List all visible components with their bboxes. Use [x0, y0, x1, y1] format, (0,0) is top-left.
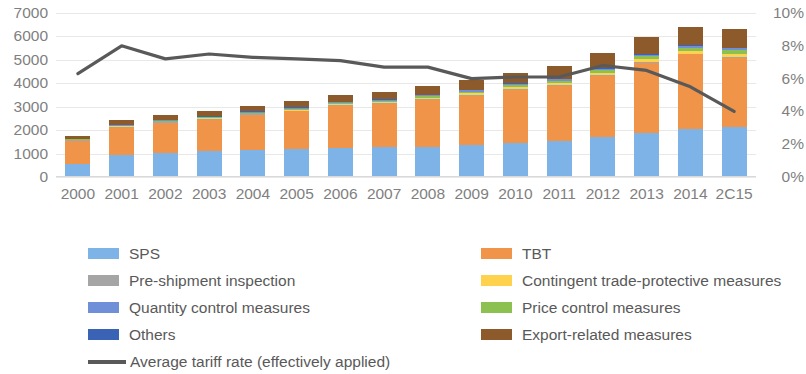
legend-swatch-icon [481, 248, 512, 259]
x-axis-tick-label: 2012 [581, 186, 625, 202]
x-axis-tick-label: 2002 [144, 186, 188, 202]
x-axis-tick-label: 2008 [406, 186, 450, 202]
legend-swatch-icon [88, 302, 119, 313]
x-axis-tick-label: 2009 [450, 186, 494, 202]
y-axis-right-tick-label: 2% [762, 136, 804, 152]
legend-swatch-icon [88, 248, 119, 259]
legend-item-sps: SPS [88, 240, 310, 267]
legend-item-export-related-measures: Export-related measures [481, 321, 781, 348]
y-axis-tick-label: 1000 [0, 146, 48, 162]
y-axis-tick-label: 7000 [0, 5, 48, 21]
legend-label: Others [129, 327, 176, 343]
y-axis-tick-label: 2000 [0, 122, 48, 138]
legend-swatch-icon [88, 275, 119, 286]
y-axis-tick-label: 3000 [0, 99, 48, 115]
x-axis-tick-label: 2006 [319, 186, 363, 202]
legend-item-quantity-control-measures: Quantity control measures [88, 294, 310, 321]
legend-label: Price control measures [522, 300, 681, 316]
x-axis-tick-label: 2004 [231, 186, 275, 202]
legend-label: SPS [129, 246, 160, 262]
legend-item-contingent-trade-protective-measures: Contingent trade-protective measures [481, 267, 781, 294]
average-tariff-line [56, 13, 756, 177]
y-axis-right-tick-label: 6% [762, 71, 804, 87]
legend-swatch-icon [481, 275, 512, 286]
x-axis-tick-label: 2005 [275, 186, 319, 202]
chart-legend: SPSPre-shipment inspectionQuantity contr… [0, 240, 806, 362]
y-axis-tick-label: 6000 [0, 28, 48, 44]
legend-label: Export-related measures [522, 327, 692, 343]
gridline [56, 177, 756, 178]
y-axis-right-tick-label: 10% [762, 5, 804, 21]
legend-label: Contingent trade-protective measures [522, 273, 781, 289]
x-axis-tick-label: 2000 [56, 186, 100, 202]
y-axis-right-tick-label: 0% [762, 169, 804, 185]
y-axis-tick-label: 0 [0, 169, 48, 185]
legend-swatch-icon [481, 302, 512, 313]
x-axis-tick-label: 2001 [100, 186, 144, 202]
legend-column-right: TBTContingent trade-protective measuresP… [481, 240, 781, 348]
line-swatch-icon [88, 360, 126, 364]
legend-label: Average tariff rate (effectively applied… [130, 354, 390, 370]
legend-column-left: SPSPre-shipment inspectionQuantity contr… [88, 240, 310, 348]
y-axis-right-tick-label: 4% [762, 103, 804, 119]
legend-swatch-icon [481, 329, 512, 340]
legend-label: Pre-shipment inspection [129, 273, 295, 289]
x-axis-tick-label: 2007 [362, 186, 406, 202]
plot-area [56, 13, 756, 177]
x-axis-tick-label: 2003 [187, 186, 231, 202]
legend-item-price-control-measures: Price control measures [481, 294, 781, 321]
x-axis-tick-label: 2014 [669, 186, 713, 202]
x-axis-tick-label: 2010 [494, 186, 538, 202]
legend-item-average-tariff-rate: Average tariff rate (effectively applied… [88, 348, 390, 374]
y-axis-right-tick-label: 8% [762, 38, 804, 54]
y-axis-tick-label: 5000 [0, 52, 48, 68]
x-axis-tick-label: 2C15 [712, 186, 756, 202]
legend-swatch-icon [88, 329, 119, 340]
legend-item-tbt: TBT [481, 240, 781, 267]
legend-label: Quantity control measures [129, 300, 310, 316]
x-axis-tick-label: 2011 [537, 186, 581, 202]
x-axis-tick-label: 2013 [625, 186, 669, 202]
legend-item-others: Others [88, 321, 310, 348]
legend-label: TBT [522, 246, 551, 262]
y-axis-tick-label: 4000 [0, 75, 48, 91]
axis-baseline [56, 176, 756, 177]
legend-item-pre-shipment-inspection: Pre-shipment inspection [88, 267, 310, 294]
